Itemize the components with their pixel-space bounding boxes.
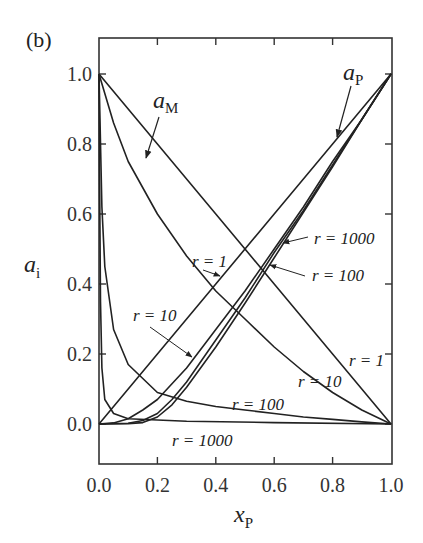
r10-left-label: r = 10 — [133, 306, 177, 325]
y-tick-labels: 1.0 0.8 0.6 0.4 0.2 0.0 — [67, 63, 92, 435]
svg-text:0.2: 0.2 — [145, 474, 170, 496]
r100-right-label: r = 100 — [312, 266, 365, 285]
svg-text:0.4: 0.4 — [67, 273, 92, 295]
r100-bottom-label: r = 100 — [232, 395, 285, 414]
svg-text:0.8: 0.8 — [67, 133, 92, 155]
svg-text:1.0: 1.0 — [67, 63, 92, 85]
r10-left-arrow — [150, 327, 192, 357]
svg-text:0.8: 0.8 — [320, 474, 345, 496]
r1000-bottom-label: r = 1000 — [172, 431, 233, 450]
activity-chart: (b) 1.0 0.8 0.6 0.4 0.2 0.0 0.0 — [0, 0, 423, 543]
x-axis-title: xP — [233, 501, 253, 531]
svg-text:0.4: 0.4 — [203, 474, 228, 496]
svg-text:0.6: 0.6 — [67, 203, 92, 225]
panel-label: (b) — [26, 27, 52, 52]
aP-label: aP — [343, 59, 363, 88]
svg-text:1.0: 1.0 — [379, 474, 404, 496]
r1-left-label: r = 1 — [192, 252, 227, 271]
svg-text:0.6: 0.6 — [262, 474, 287, 496]
y-axis-title: ai — [24, 251, 40, 281]
svg-text:0.0: 0.0 — [87, 474, 112, 496]
r10-right-label: r = 10 — [298, 372, 342, 391]
r1000-right-label: r = 1000 — [314, 229, 375, 248]
aM-label: aM — [153, 87, 178, 116]
svg-text:0.0: 0.0 — [67, 413, 92, 435]
x-tick-labels: 0.0 0.2 0.4 0.6 0.8 1.0 — [87, 474, 404, 496]
svg-text:0.2: 0.2 — [67, 343, 92, 365]
r100-right-arrow — [270, 265, 305, 276]
curves — [99, 74, 391, 424]
r1-right-label: r = 1 — [349, 351, 384, 370]
aM-arrow — [146, 117, 159, 158]
